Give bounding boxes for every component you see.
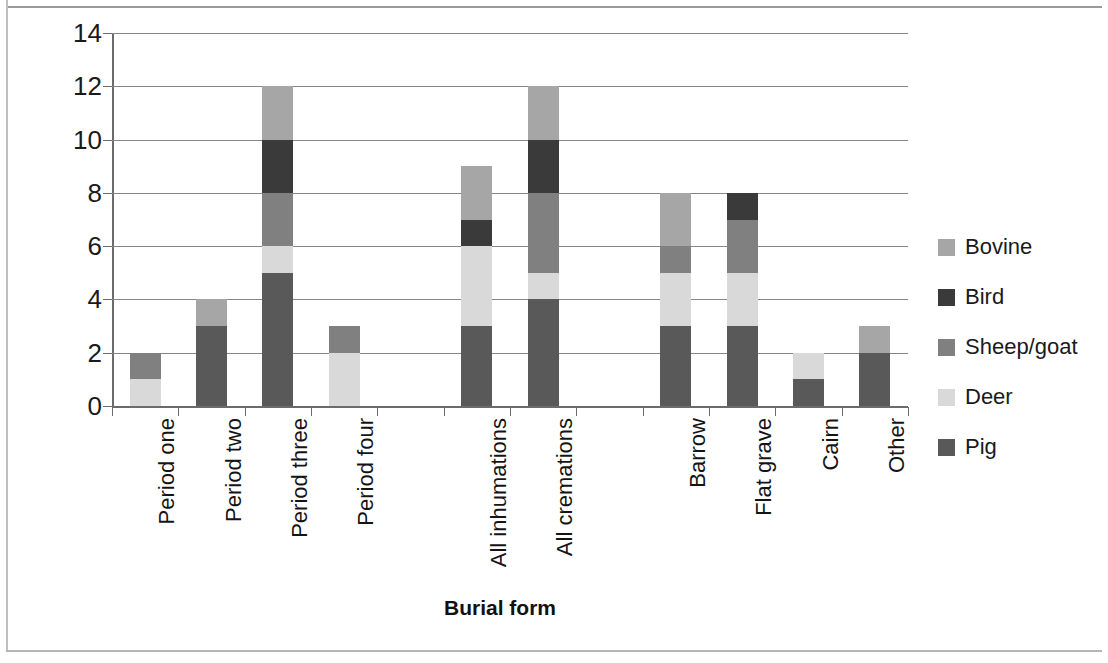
y-axis-tick-label: 12 [73,73,102,99]
x-axis-category-label: Period four [355,418,377,526]
y-axis-tick [103,299,112,300]
x-axis-category-label: Other [886,418,908,473]
chart-figure: Number of burials 02468101214 Period one… [0,0,1108,663]
page-border-bottom [6,650,1102,652]
legend-item-pig[interactable]: Pig [938,422,1108,472]
y-axis-tick [103,193,112,194]
y-axis-tick [103,33,112,34]
legend-label: Deer [965,386,1013,408]
x-axis-category-label: All inhumations [488,418,510,567]
x-axis-category-label: Cairn [820,418,842,471]
y-axis-tick [103,86,112,87]
x-axis-category-label: All cremations [554,418,576,556]
legend-item-bovine[interactable]: Bovine [938,222,1108,272]
page-border-left [6,0,8,652]
x-axis-category-label: Period one [156,418,178,524]
x-axis-category-label: Period two [223,418,245,522]
y-axis-tick [103,140,112,141]
y-axis-tick-label: 4 [88,286,102,312]
y-axis-tick-label: 10 [73,127,102,153]
x-axis-category-label: Barrow [687,418,709,488]
legend-item-sheep-goat[interactable]: Sheep/goat [938,322,1108,372]
legend-item-deer[interactable]: Deer [938,372,1108,422]
y-axis-tick [103,246,112,247]
legend-label: Bovine [965,236,1032,258]
x-axis-category-label: Flat grave [753,418,775,516]
legend-label: Sheep/goat [965,336,1078,358]
x-axis-title: Burial form [0,596,1000,620]
y-axis-tick [103,353,112,354]
y-axis-tick-label: 0 [88,393,102,419]
legend-swatch-icon [938,239,955,256]
legend-swatch-icon [938,339,955,356]
chart-legend: BovineBirdSheep/goatDeerPig [938,222,1108,472]
x-axis-tick [908,407,909,416]
legend-swatch-icon [938,389,955,406]
legend-swatch-icon [938,289,955,306]
legend-label: Pig [965,436,997,458]
legend-label: Bird [965,286,1004,308]
x-axis-category-label: Period three [289,418,311,538]
y-axis-tick-label: 6 [88,233,102,259]
y-axis-tick [103,406,112,407]
y-axis-tick-label: 2 [88,340,102,366]
y-axis-tick-label: 8 [88,180,102,206]
legend-item-bird[interactable]: Bird [938,272,1108,322]
x-axis-category-labels: Period onePeriod twoPeriod threePeriod f… [112,0,908,600]
legend-swatch-icon [938,439,955,456]
y-axis-tick-label: 14 [73,20,102,46]
y-axis-tick-labels: 02468101214 [58,33,102,406]
